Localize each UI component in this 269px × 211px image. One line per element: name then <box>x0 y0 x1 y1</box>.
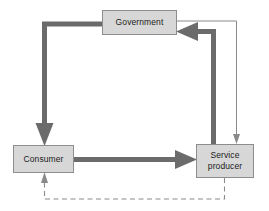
edge-consumer-to-service-producer <box>74 150 197 169</box>
node-consumer[interactable]: Consumer <box>13 145 74 173</box>
node-government[interactable]: Government <box>102 10 177 35</box>
edge-service-producer-to-government <box>176 22 214 145</box>
node-consumer-label: Consumer <box>21 154 65 165</box>
node-service-producer-label: Service producer <box>206 150 244 171</box>
diagram-canvas: Government Consumer Service producer <box>0 0 269 211</box>
node-service-producer[interactable]: Service producer <box>196 144 254 178</box>
edge-government-to-service-producer <box>177 21 240 144</box>
node-government-label: Government <box>114 17 166 28</box>
edge-government-to-consumer <box>36 24 105 146</box>
